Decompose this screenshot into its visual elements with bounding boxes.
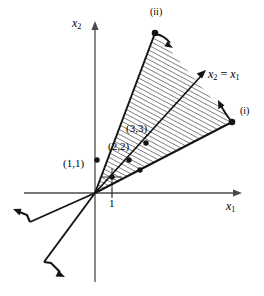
point-3-3-label: (3,3)	[126, 123, 147, 134]
x2-axis-label-sub: 2	[77, 22, 81, 31]
x2-axis-line	[91, 21, 98, 282]
cone-hatched-region	[95, 33, 232, 193]
point-2-2-label: (2,2)	[108, 141, 129, 152]
figure-canvas: x2 x1 (ii) (i) x2 = x1 (1,1) (2,2) (3,3)…	[0, 0, 264, 296]
x1-axis-label-sub: 1	[231, 205, 235, 214]
x2-equals-x1-label: x2 = x1	[208, 68, 240, 82]
x1-axis-label: x1	[226, 200, 235, 214]
point-1-1-dot	[109, 174, 114, 179]
cone-edge-i-inner-dot	[137, 167, 142, 172]
x2-axis-label: x2	[72, 17, 81, 31]
x1-tick-one-label: 1	[109, 198, 115, 209]
point-3-3-dot	[143, 140, 148, 145]
negative-ray-i-line	[13, 193, 95, 222]
point-2-2-dot	[126, 157, 131, 162]
cone-edge-i-label: (i)	[240, 106, 249, 116]
point-1-1-label: (1,1)	[63, 158, 84, 169]
cone-edge-ii-inner-dot	[94, 157, 99, 162]
cone-edge-ii-label: (ii)	[150, 7, 162, 17]
x1-axis-line	[24, 189, 242, 196]
negative-ray-ii-line	[44, 193, 95, 277]
cone-diagram-svg	[0, 0, 264, 296]
